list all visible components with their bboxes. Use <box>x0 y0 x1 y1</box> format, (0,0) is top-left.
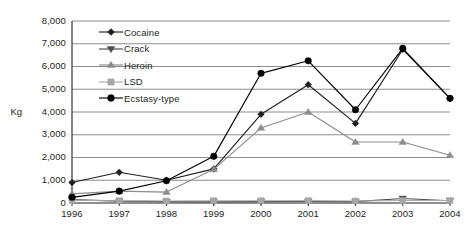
triangle-down-marker-icon <box>107 46 115 52</box>
legend-item-crack[interactable]: Crack <box>98 41 202 58</box>
legend-item-label: Heroin <box>124 60 153 71</box>
x-axis-tick-label: 2002 <box>333 208 379 219</box>
square-marker-icon <box>108 79 114 85</box>
x-axis-tick-label: 2003 <box>380 208 426 219</box>
triangle-up-marker-icon <box>98 58 124 72</box>
legend-item-lsd[interactable]: LSD <box>98 74 202 91</box>
legend-item-label: LSD <box>124 76 143 87</box>
square-marker-icon <box>98 75 124 89</box>
diamond-marker-icon <box>98 25 124 39</box>
legend-item-cocaine[interactable]: Cocaine <box>98 24 202 41</box>
legend-item-ecstasy-type[interactable]: Ecstasy-type <box>98 90 202 107</box>
circle-marker-icon <box>98 91 124 105</box>
x-axis-tick-label: 1996 <box>49 208 95 219</box>
x-axis-tick-label: 2004 <box>427 208 465 219</box>
x-axis-tick-label: 2001 <box>285 208 331 219</box>
legend-item-label: Crack <box>124 43 149 54</box>
legend-item-heroin[interactable]: Heroin <box>98 57 202 74</box>
triangle-down-marker-icon <box>98 42 124 56</box>
circle-marker-icon <box>108 95 115 102</box>
x-axis-tick-label: 1998 <box>144 208 190 219</box>
diamond-marker-icon <box>108 29 115 36</box>
triangle-up-marker-icon <box>107 62 115 68</box>
x-axis-tick-label: 1997 <box>96 208 142 219</box>
legend-item-label: Cocaine <box>124 27 160 38</box>
chart-legend: CocaineCrackHeroinLSDEcstasy-type <box>98 24 202 107</box>
legend-item-label: Ecstasy-type <box>124 93 180 104</box>
x-axis-tick-label: 2000 <box>238 208 284 219</box>
x-axis-tick-label: 1999 <box>191 208 237 219</box>
